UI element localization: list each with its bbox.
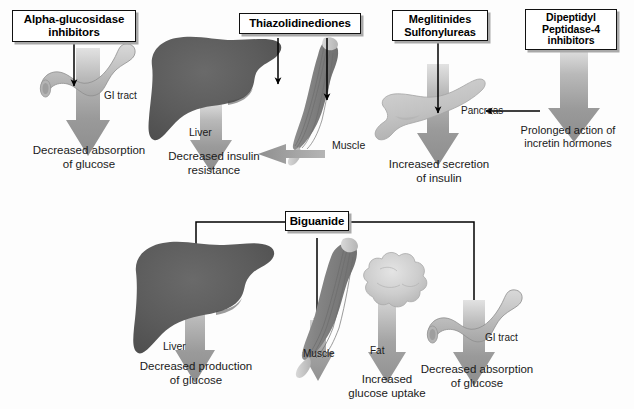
- caption-prolonged-incretin: Prolonged action of incretin hormones: [506, 124, 630, 150]
- organ-label-gi-tract-top: GI tract: [104, 90, 137, 101]
- organ-muscle-top: [288, 37, 338, 165]
- diagram-canvas: Alpha-glucosidase inhibitors Thiazolidin…: [0, 0, 634, 409]
- organ-label-muscle-bottom: Muscle: [303, 348, 335, 359]
- caption-decreased-insulin-resistance: Decreased insulin resistance: [153, 150, 275, 177]
- organ-label-gi-tract-bottom: GI tract: [485, 332, 518, 343]
- drug-box-thiazolidinediones[interactable]: Thiazolidinediones: [239, 13, 361, 34]
- panel-meglitinides: [375, 40, 485, 166]
- drug-box-meglitinides-sulfonylureas[interactable]: Meglitinides Sulfonylureas: [392, 10, 488, 41]
- effect-arrow-fat-bottom: [368, 300, 406, 383]
- drug-box-biguanide[interactable]: Biguanide: [285, 211, 349, 231]
- organ-label-liver-top: Liver: [189, 126, 212, 138]
- panel-bottom-muscle: [296, 238, 358, 381]
- organ-label-muscle-top: Muscle: [332, 139, 365, 151]
- effect-arrow-gi-top: [66, 48, 110, 156]
- caption-decreased-absorption-bottom: Decreased absorption of glucose: [404, 363, 550, 390]
- drug-box-alpha-glucosidase-inhibitors[interactable]: Alpha-glucosidase inhibitors: [12, 10, 136, 42]
- caption-decreased-production-glucose: Decreased production of glucose: [122, 360, 270, 387]
- caption-increased-secretion-insulin: Increased secretion of insulin: [369, 158, 509, 185]
- organ-label-fat-bottom: Fat: [370, 345, 384, 356]
- organ-label-pancreas-top: Pancreas: [461, 105, 503, 116]
- drug-box-dipeptidyl-peptidase-4-inhibitors[interactable]: Dipeptidyl Peptidase-4 inhibitors: [525, 9, 617, 50]
- caption-decreased-absorption-top: Decreased absorption of glucose: [16, 144, 162, 171]
- organ-label-liver-bottom: Liver: [163, 340, 186, 352]
- organ-fat: [364, 252, 427, 306]
